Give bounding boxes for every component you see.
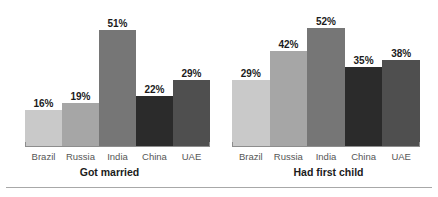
bar-slot-uae-right: 38% <box>382 10 420 146</box>
bar-brazil-right[interactable] <box>232 80 270 146</box>
bar-slot-brazil-left: 16% <box>25 10 62 146</box>
bar-uae-right[interactable] <box>382 60 420 146</box>
bottom-divider <box>6 187 432 188</box>
bar-slot-china-left: 22% <box>136 10 173 146</box>
bar-slot-india-left: 51% <box>99 10 136 146</box>
chart-panel-got-married: 16% 19% 51% 22% 29% <box>0 0 219 182</box>
axis-tick-end-left <box>209 142 210 147</box>
bar-value-russia-left: 19% <box>62 91 99 102</box>
axis-tick-end-right <box>419 142 420 147</box>
bar-brazil-left[interactable] <box>25 110 62 146</box>
bar-value-brazil-left: 16% <box>25 98 62 109</box>
category-label-india-left: India <box>99 151 136 163</box>
bar-india-left[interactable] <box>99 30 136 146</box>
bar-slot-china-right: 35% <box>345 10 383 146</box>
axis-tick-start-right <box>232 142 233 147</box>
axis-tick-start-left <box>25 142 26 147</box>
x-axis-left <box>25 146 210 147</box>
plot-area-right: 29% 42% 52% 35% 38% <box>232 10 420 146</box>
category-label-russia-right: Russia <box>270 151 308 163</box>
bar-slot-russia-right: 42% <box>270 10 308 146</box>
bar-value-uae-right: 38% <box>382 48 420 59</box>
bar-slot-russia-left: 19% <box>62 10 99 146</box>
bar-china-left[interactable] <box>136 96 173 146</box>
bar-slot-brazil-right: 29% <box>232 10 270 146</box>
bar-russia-left[interactable] <box>62 103 99 146</box>
panel-title-got-married: Got married <box>0 166 219 178</box>
category-label-brazil-left: Brazil <box>25 151 62 163</box>
bar-value-india-left: 51% <box>99 18 136 29</box>
category-label-china-right: China <box>345 151 383 163</box>
plot-area-left: 16% 19% 51% 22% 29% <box>25 10 210 146</box>
grouped-bar-chart-figure: 16% 19% 51% 22% 29% <box>0 0 438 197</box>
bar-value-uae-left: 29% <box>173 68 210 79</box>
bar-uae-left[interactable] <box>173 80 210 146</box>
chart-panels: 16% 19% 51% 22% 29% <box>0 0 438 182</box>
bar-value-china-left: 22% <box>136 84 173 95</box>
category-label-russia-left: Russia <box>62 151 99 163</box>
category-label-uae-left: UAE <box>173 151 210 163</box>
bar-china-right[interactable] <box>345 67 383 146</box>
bar-india-right[interactable] <box>307 28 345 146</box>
bar-slot-india-right: 52% <box>307 10 345 146</box>
chart-panel-had-first-child: 29% 42% 52% 35% 38% <box>219 0 438 182</box>
category-label-india-right: India <box>307 151 345 163</box>
x-axis-right <box>232 146 420 147</box>
category-label-china-left: China <box>136 151 173 163</box>
bar-value-china-right: 35% <box>345 55 383 66</box>
category-label-uae-right: UAE <box>382 151 420 163</box>
bar-russia-right[interactable] <box>270 51 308 146</box>
bar-value-india-right: 52% <box>307 16 345 27</box>
panel-title-had-first-child: Had first child <box>219 166 438 178</box>
category-labels-left: Brazil Russia India China UAE <box>25 151 210 163</box>
bar-value-russia-right: 42% <box>270 39 308 50</box>
category-label-brazil-right: Brazil <box>232 151 270 163</box>
bar-slot-uae-left: 29% <box>173 10 210 146</box>
bar-value-brazil-right: 29% <box>232 68 270 79</box>
category-labels-right: Brazil Russia India China UAE <box>232 151 420 163</box>
